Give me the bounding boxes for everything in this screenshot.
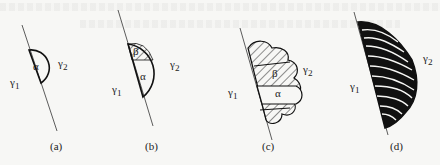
gamma2-label: γ2 bbox=[303, 63, 312, 78]
caption-d: (d) bbox=[390, 140, 403, 152]
caption-c: (c) bbox=[262, 140, 274, 152]
subscript: 2 bbox=[308, 68, 313, 78]
subscript: 1 bbox=[117, 88, 122, 98]
gamma1-label: γ1 bbox=[350, 80, 359, 95]
phase-label-alpha: α bbox=[33, 60, 39, 72]
phase-label-alpha: α bbox=[140, 70, 146, 82]
subscript: 1 bbox=[233, 91, 238, 101]
panel-c bbox=[240, 28, 302, 140]
phase-label-beta: β bbox=[133, 45, 139, 57]
phase-label-alpha: α bbox=[275, 87, 281, 99]
gamma2-label: γ2 bbox=[170, 58, 179, 73]
subscript: 2 bbox=[63, 62, 68, 72]
gamma2-label: γ2 bbox=[423, 52, 432, 67]
panel-a bbox=[22, 25, 57, 131]
subscript: 1 bbox=[15, 81, 20, 91]
subscript: 2 bbox=[175, 63, 180, 73]
phase-label-beta: β bbox=[272, 67, 278, 79]
gamma1-label: γ1 bbox=[10, 76, 19, 91]
caption-b: (b) bbox=[145, 140, 158, 152]
beta-nucleus bbox=[128, 43, 153, 60]
caption-a: (a) bbox=[50, 140, 62, 152]
gamma2-label: γ2 bbox=[58, 57, 67, 72]
diagram-canvas bbox=[0, 0, 440, 165]
panel-b bbox=[118, 10, 154, 126]
subscript: 1 bbox=[355, 85, 360, 95]
subscript: 2 bbox=[428, 57, 433, 67]
panel-d bbox=[354, 12, 417, 135]
gamma1-label: γ1 bbox=[112, 83, 121, 98]
gamma1-label: γ1 bbox=[228, 86, 237, 101]
